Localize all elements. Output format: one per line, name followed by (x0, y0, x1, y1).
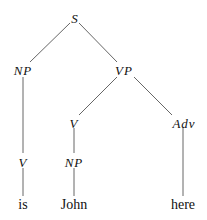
leaf-here: here (171, 197, 195, 212)
node-np-subject: NP (13, 63, 33, 78)
node-adv: Adv (171, 116, 195, 131)
node-v-subject: V (19, 155, 29, 170)
node-v-verb-phrase: V (70, 116, 80, 131)
node-vp: VP (115, 63, 133, 78)
edge-s-vp (79, 23, 117, 62)
leaf-is: is (18, 197, 27, 212)
node-s: S (71, 11, 79, 26)
edge-s-np (30, 23, 70, 62)
node-np-object: NP (64, 155, 84, 170)
edge-vp-adv (134, 77, 172, 115)
parse-tree-diagram: S NP VP V Adv V NP is John here (0, 0, 207, 220)
tree-edges (23, 23, 183, 196)
edge-vp-v (79, 77, 117, 115)
leaf-john: John (61, 197, 87, 212)
